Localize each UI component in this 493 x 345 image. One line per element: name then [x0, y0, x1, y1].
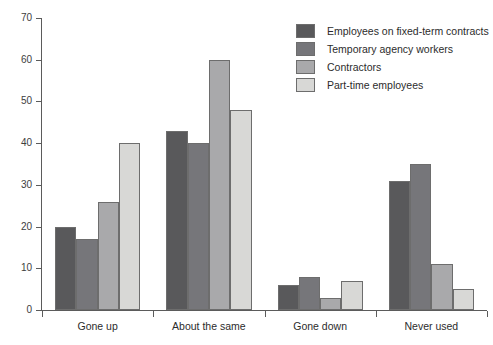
bar [299, 277, 320, 310]
y-axis-tick-label: 40 [4, 138, 32, 148]
legend-item: Contractors [296, 58, 491, 75]
x-axis-group-label: Gone down [265, 320, 376, 332]
bar [209, 60, 230, 310]
y-axis-tick-label: 20 [4, 222, 32, 232]
x-axis-group-label: Never used [376, 320, 487, 332]
bar [119, 143, 140, 310]
y-axis-tick-label: 50 [4, 96, 32, 106]
y-axis-tick-label: 60 [4, 55, 32, 65]
bar [98, 202, 119, 310]
x-axis-group-label: Gone up [42, 320, 153, 332]
legend-item: Employees on fixed-term contracts [296, 22, 491, 39]
legend-label: Contractors [327, 61, 381, 73]
x-axis-tick-mark [487, 311, 488, 317]
bar [410, 164, 431, 310]
legend-label: Employees on fixed-term contracts [327, 25, 489, 37]
bar [389, 181, 410, 310]
bar [188, 143, 209, 310]
x-axis-tick-mark [153, 311, 154, 317]
y-axis-tick-label: 30 [4, 180, 32, 190]
bar [320, 298, 341, 311]
legend-swatch [296, 24, 315, 38]
x-axis-tick-mark [265, 311, 266, 317]
bar-chart: 010203040506070 Gone upAbout the sameGon… [0, 0, 493, 345]
bar [341, 281, 362, 310]
x-axis-tick-mark [376, 311, 377, 317]
legend-swatch [296, 78, 315, 92]
bar [453, 289, 474, 310]
bar [431, 264, 452, 310]
bar [55, 227, 76, 310]
bar [278, 285, 299, 310]
bar [230, 110, 251, 310]
bar [76, 239, 97, 310]
legend-swatch [296, 42, 315, 56]
y-axis-tick-label: 0 [4, 305, 32, 315]
legend-label: Part-time employees [327, 79, 423, 91]
legend: Employees on fixed-term contractsTempora… [296, 22, 491, 94]
legend-swatch [296, 60, 315, 74]
x-axis-tick-mark [42, 311, 43, 317]
legend-item: Part-time employees [296, 76, 491, 93]
bar [166, 131, 187, 310]
legend-label: Temporary agency workers [327, 43, 453, 55]
x-axis-group-label: About the same [153, 320, 264, 332]
y-axis-tick-label: 10 [4, 263, 32, 273]
legend-item: Temporary agency workers [296, 40, 491, 57]
y-axis-tick-label: 70 [4, 13, 32, 23]
